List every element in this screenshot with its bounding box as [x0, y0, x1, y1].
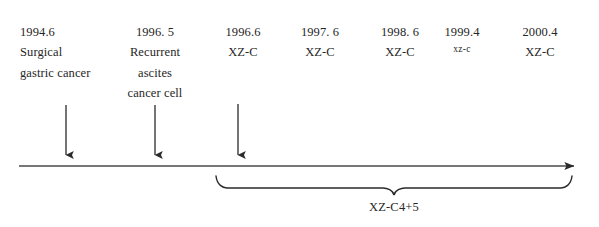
timeline-event-1: 1994.6Surgicalgastric cancer: [20, 22, 90, 83]
event-label-line: XZ-C: [381, 42, 419, 62]
timeline-event-7: 2000.4XZ-C: [523, 22, 558, 63]
timeline-event-2: 1996. 5Recurrentascitescancer cell: [128, 22, 183, 103]
event-label-line: XZ-C: [301, 42, 339, 62]
timeline-event-3: 1996.6XZ-C: [226, 22, 261, 63]
timeline-figure: 1994.6Surgicalgastric cancer1996. 5Recur…: [0, 0, 599, 227]
event-label-line: XZ-C: [523, 42, 558, 62]
treatment-period-brace: [216, 176, 572, 195]
event-label-line: Surgical: [20, 42, 90, 62]
event-date: 1994.6: [20, 22, 90, 42]
timeline-event-5: 1998. 6XZ-C: [381, 22, 419, 63]
event-date: 1996.6: [226, 22, 261, 42]
event-marker-arrows-group: [66, 104, 238, 155]
event-date: 1996. 5: [128, 22, 183, 42]
event-label-line: cancer cell: [128, 83, 183, 103]
event-date: 1997. 6: [301, 22, 339, 42]
event-label-line: Recurrent: [128, 42, 183, 62]
event-label-line: ascites: [128, 63, 183, 83]
event-date: 1999.4: [445, 22, 480, 42]
brace-label: XZ-C4+5: [369, 200, 419, 215]
timeline-event-6: 1999.4xz-c: [445, 22, 480, 58]
event-date: 1998. 6: [381, 22, 419, 42]
event-label-line: XZ-C: [226, 42, 261, 62]
event-date: 2000.4: [523, 22, 558, 42]
event-label-line: xz-c: [445, 42, 480, 57]
timeline-event-4: 1997. 6XZ-C: [301, 22, 339, 63]
event-label-line: gastric cancer: [20, 63, 90, 83]
